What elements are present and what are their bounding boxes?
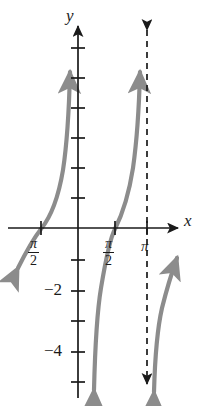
x-tick-label-pi: π xyxy=(141,238,149,255)
curve-branch-1 xyxy=(18,72,70,268)
fraction-denominator: 2 xyxy=(103,254,114,268)
x-tick-label-pi-over-2: π 2 xyxy=(103,237,114,269)
y-tick-label-neg-2: −2 xyxy=(44,280,62,300)
fraction-denominator: 2 xyxy=(28,254,39,268)
curve-branch-3 xyxy=(154,258,177,392)
fraction-numerator: π xyxy=(28,237,39,251)
fraction-pi-over-2-right: π 2 xyxy=(103,237,114,269)
x-tick-label-neg-pi-over-2: π 2 xyxy=(28,237,39,269)
y-tick-label-neg-4: −4 xyxy=(44,341,62,361)
tangent-function-graph xyxy=(0,0,201,406)
fraction-pi-over-2-left: π 2 xyxy=(28,237,39,269)
curve-branch-2 xyxy=(94,72,140,390)
x-axis-label: x xyxy=(184,211,192,231)
fraction-numerator: π xyxy=(103,237,114,251)
y-axis-label: y xyxy=(66,6,74,26)
